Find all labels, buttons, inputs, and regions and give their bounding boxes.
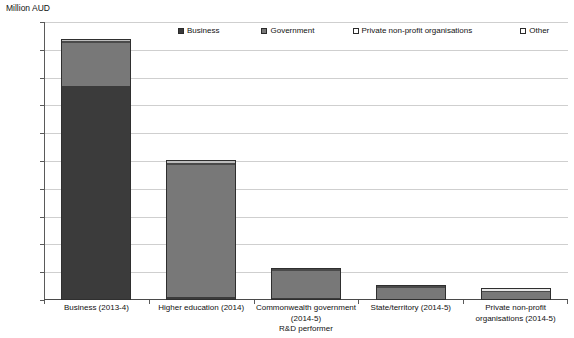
- x-axis-category-label: Higher education (2014): [149, 303, 254, 314]
- bar-stack[interactable]: [376, 285, 446, 300]
- bar-segment[interactable]: [61, 86, 131, 300]
- y-axis-title: Million AUD: [6, 3, 50, 13]
- bar-stack[interactable]: [166, 160, 236, 300]
- x-axis-category-line: Commonwealth government: [254, 303, 359, 314]
- x-axis-labels: Business (2013-4)Higher education (2014)…: [44, 303, 568, 338]
- bar-series-group: [44, 22, 568, 300]
- x-axis-category-label: State/territory (2014-5): [358, 303, 463, 314]
- bar-segment[interactable]: [376, 299, 446, 300]
- x-axis-category-label: Commonwealth government(2014-5)R&D perfo…: [254, 303, 359, 335]
- bar-segment[interactable]: [166, 165, 236, 297]
- x-axis-category-line: Higher education (2014): [149, 303, 254, 314]
- bar-stack[interactable]: [481, 288, 551, 301]
- plot-area: 2000018000160001400012000100008000600040…: [44, 22, 568, 300]
- bar-segment[interactable]: [481, 299, 551, 300]
- bar-segment[interactable]: [481, 292, 551, 299]
- x-axis-category-line: State/territory (2014-5): [358, 303, 463, 314]
- bar-stack[interactable]: [61, 39, 131, 300]
- x-axis-category-label: Private non-profitorganisations (2014-5): [463, 303, 568, 324]
- x-axis-category-line: R&D performer: [254, 324, 359, 335]
- x-axis-category-line: organisations (2014-5): [463, 314, 568, 325]
- bar-segment[interactable]: [271, 271, 341, 298]
- bar-segment[interactable]: [61, 43, 131, 86]
- bar-segment[interactable]: [376, 288, 446, 300]
- chart-container: Million AUD Business Government Private …: [0, 0, 574, 338]
- x-axis-category-label: Business (2013-4): [44, 303, 149, 314]
- x-axis-category-line: Business (2013-4): [44, 303, 149, 314]
- x-axis-category-line: (2014-5): [254, 314, 359, 325]
- bar-segment[interactable]: [166, 297, 236, 300]
- x-axis-category-line: Private non-profit: [463, 303, 568, 314]
- bar-stack[interactable]: [271, 268, 341, 300]
- bar-segment[interactable]: [271, 298, 341, 300]
